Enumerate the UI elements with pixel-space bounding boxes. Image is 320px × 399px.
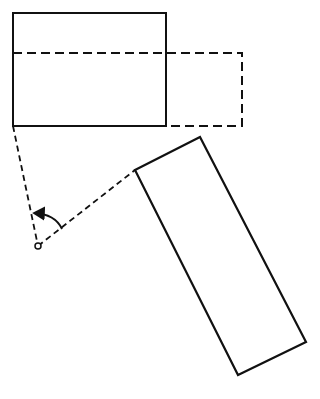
rotation-diagram: [0, 0, 320, 399]
original-rectangle: [13, 13, 166, 126]
dashed-rectangle: [13, 53, 242, 126]
rotation-arrow-icon: [34, 213, 62, 229]
construction-line-left: [13, 126, 38, 246]
pivot-point: [35, 243, 41, 249]
construction-line-right: [38, 170, 135, 246]
rotated-rectangle: [135, 137, 306, 375]
